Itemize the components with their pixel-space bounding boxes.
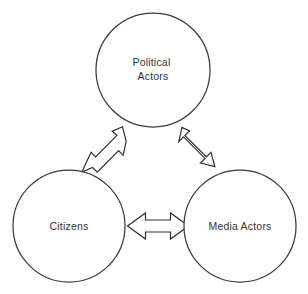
connector-citizens-political — [82, 127, 126, 172]
political-actors-label-line1: Political — [132, 56, 170, 68]
political-actors-label-line2: Actors — [138, 70, 169, 82]
media-actors-label-line1: Media Actors — [208, 220, 271, 232]
double-headed-arrow-diagonal-left — [82, 127, 126, 172]
node-media-actors[interactable]: Media Actors — [184, 170, 296, 282]
connector-political-media — [179, 127, 215, 166]
node-political-actors[interactable]: Political Actors — [96, 13, 210, 127]
double-headed-arrow-horizontal — [128, 213, 189, 239]
node-citizens[interactable]: Citizens — [13, 170, 125, 282]
connector-citizens-media — [128, 213, 189, 239]
double-headed-arrow-diagonal-right — [179, 127, 215, 166]
diagram-canvas: Political Actors Citizens Media Actors — [0, 0, 308, 294]
citizens-label: Citizens — [50, 220, 89, 232]
media-actors-label: Media Actors — [208, 220, 271, 232]
citizens-label-line1: Citizens — [50, 220, 89, 232]
actors-triangle-diagram: Political Actors Citizens Media Actors — [0, 0, 308, 294]
